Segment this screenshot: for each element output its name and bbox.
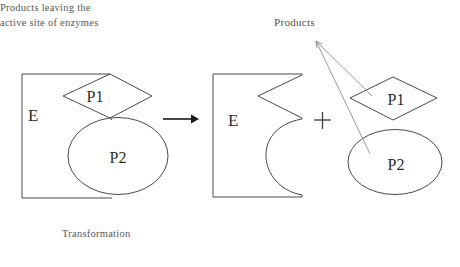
released-products: P1 P2: [348, 77, 442, 195]
plus-operator: [314, 112, 331, 129]
product-p1-label: P1: [388, 91, 405, 108]
products-leader-lines: [316, 41, 372, 154]
reaction-arrow-head: [191, 115, 199, 124]
left-p1-p2-connector-stub: [110, 118, 112, 120]
left-substrate-p1-diamond: [63, 74, 152, 118]
left-p1-label: P1: [87, 88, 104, 105]
products-callout-label: Products: [274, 16, 315, 28]
reaction-arrow: [163, 115, 199, 124]
left-p2-label: P2: [110, 149, 127, 166]
product-p2-label: P2: [388, 156, 405, 173]
enzyme-transformation-diagram: E P1 P2 E P1 P2: [0, 0, 460, 267]
caption-transformation: Transformation: [62, 226, 130, 241]
left-enzyme-label: E: [28, 106, 38, 125]
leader-line-to-p2: [316, 41, 370, 154]
right-enzyme-body-shape: [213, 74, 302, 197]
leader-line-to-p1: [316, 41, 372, 96]
right-enzyme-label: E: [228, 111, 238, 130]
left-enzyme-substrate-complex: E P1 P2: [22, 74, 168, 198]
right-free-enzyme: E: [213, 74, 302, 197]
